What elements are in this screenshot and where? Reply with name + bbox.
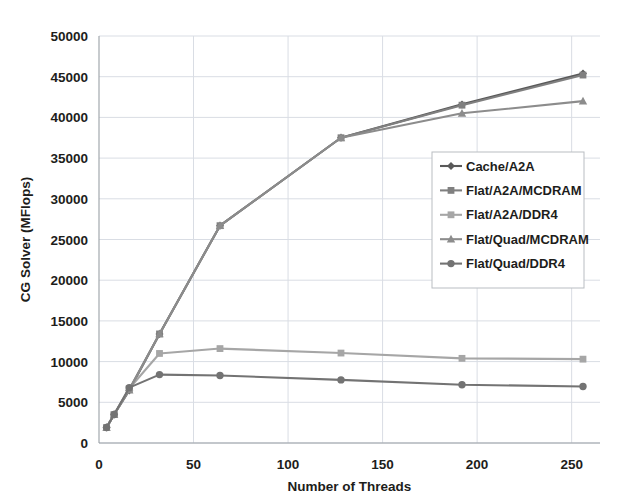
- data-point-marker: [448, 187, 455, 194]
- series-2: [103, 345, 586, 431]
- data-point-marker: [156, 350, 163, 357]
- y-tick-label: 10000: [50, 355, 88, 370]
- x-axis-title-text: Number of Threads: [288, 479, 412, 494]
- y-tick-label: 0: [80, 436, 88, 451]
- x-tick-label: 150: [371, 457, 394, 472]
- y-tick-label: 50000: [50, 29, 88, 44]
- x-tick-label: 0: [95, 457, 103, 472]
- x-tick-label: 50: [186, 457, 201, 472]
- data-point-marker: [458, 381, 465, 388]
- y-axis-title-text: CG Solver (MFlops): [18, 177, 33, 302]
- x-axis-tick-labels: 050100150200250: [95, 457, 583, 472]
- legend-item-label: Flat/Quad/DDR4: [466, 256, 566, 271]
- data-point-marker: [459, 355, 466, 362]
- data-point-marker: [579, 383, 586, 390]
- data-point-marker: [103, 424, 110, 431]
- y-tick-label: 20000: [50, 273, 88, 288]
- legend-item-label: Flat/Quad/MCDRAM: [466, 232, 589, 247]
- data-point-marker: [337, 376, 344, 383]
- x-tick-label: 250: [560, 457, 583, 472]
- y-tick-label: 45000: [50, 70, 88, 85]
- data-point-marker: [216, 372, 223, 379]
- y-axis-tick-labels: 0500010000150002000025000300003500040000…: [50, 29, 88, 451]
- cg-solver-line-chart: 0500010000150002000025000300003500040000…: [0, 0, 635, 499]
- y-tick-label: 40000: [50, 110, 88, 125]
- legend-item-label: Flat/A2A/MCDRAM: [466, 183, 582, 198]
- y-tick-label: 35000: [50, 151, 88, 166]
- data-point-marker: [156, 371, 163, 378]
- legend-item-label: Cache/A2A: [466, 159, 535, 174]
- series-line: [107, 349, 583, 428]
- legend-item-label: Flat/A2A/DDR4: [466, 207, 559, 222]
- data-point-marker: [110, 411, 117, 418]
- data-point-marker: [459, 102, 466, 109]
- data-point-marker: [447, 260, 454, 267]
- chart-container: 0500010000150002000025000300003500040000…: [0, 0, 635, 499]
- series-4: [103, 371, 587, 431]
- data-point-marker: [338, 350, 345, 357]
- y-tick-label: 5000: [58, 395, 88, 410]
- series-line: [107, 375, 583, 428]
- y-tick-label: 30000: [50, 192, 88, 207]
- data-point-marker: [217, 345, 224, 352]
- x-tick-label: 100: [277, 457, 300, 472]
- legend: Cache/A2AFlat/A2A/MCDRAMFlat/A2A/DDR4Fla…: [432, 152, 589, 288]
- data-point-marker: [126, 384, 133, 391]
- y-tick-label: 15000: [50, 314, 88, 329]
- data-point-marker: [580, 356, 587, 363]
- x-axis-title: Number of Threads: [288, 479, 412, 494]
- data-point-marker: [448, 211, 455, 218]
- x-tick-label: 200: [466, 457, 489, 472]
- y-tick-label: 25000: [50, 233, 88, 248]
- data-point-marker: [580, 72, 587, 79]
- y-axis-title: CG Solver (MFlops): [18, 177, 33, 302]
